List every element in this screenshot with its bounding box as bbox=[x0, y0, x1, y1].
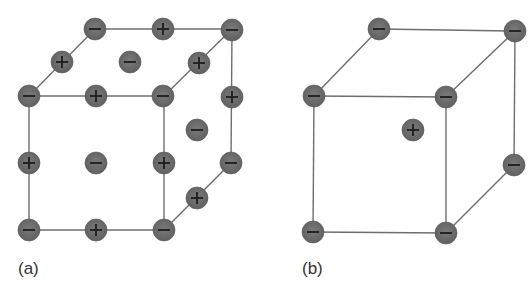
anion bbox=[302, 221, 324, 243]
anion bbox=[503, 154, 525, 176]
anion bbox=[435, 86, 457, 108]
edge bbox=[446, 31, 515, 97]
edge bbox=[313, 232, 446, 233]
cation bbox=[188, 52, 210, 74]
anion bbox=[504, 20, 526, 42]
anion bbox=[119, 51, 141, 73]
edge bbox=[379, 29, 515, 31]
cation bbox=[85, 219, 107, 241]
anion bbox=[303, 85, 325, 107]
anion bbox=[435, 222, 457, 244]
cation bbox=[153, 152, 175, 174]
anion bbox=[85, 152, 107, 174]
anion bbox=[221, 19, 243, 41]
edge bbox=[514, 31, 515, 165]
cation bbox=[186, 187, 208, 209]
edge bbox=[314, 29, 379, 96]
anion bbox=[18, 219, 40, 241]
cation bbox=[402, 119, 424, 141]
anion bbox=[220, 152, 242, 174]
cation bbox=[221, 86, 243, 108]
anion bbox=[18, 85, 40, 107]
cation bbox=[18, 152, 40, 174]
crystal-structure-figure: (a) (b) bbox=[0, 0, 532, 288]
cation bbox=[85, 85, 107, 107]
panel-b: (b) bbox=[302, 18, 526, 278]
anion bbox=[84, 18, 106, 40]
edge bbox=[313, 96, 314, 232]
anion bbox=[153, 219, 175, 241]
cation bbox=[51, 51, 73, 73]
edge bbox=[314, 96, 446, 97]
panel-a-label: (a) bbox=[18, 259, 39, 278]
edge bbox=[446, 165, 514, 233]
cation bbox=[152, 18, 174, 40]
panel-b-label: (b) bbox=[302, 259, 323, 278]
anion bbox=[152, 85, 174, 107]
anion bbox=[186, 119, 208, 141]
panel-a: (a) bbox=[18, 18, 243, 278]
anion bbox=[368, 18, 390, 40]
